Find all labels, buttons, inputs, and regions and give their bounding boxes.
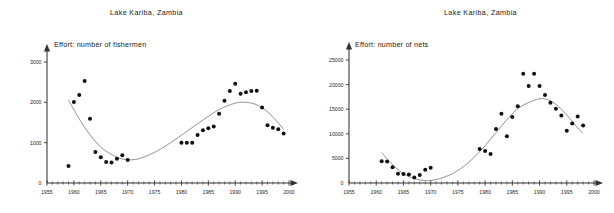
data-point — [401, 172, 405, 176]
data-point — [244, 90, 248, 94]
data-point — [478, 147, 482, 151]
data-point — [77, 93, 81, 97]
data-point — [538, 84, 542, 88]
svg-text:0: 0 — [39, 180, 42, 186]
data-point — [217, 112, 221, 116]
svg-text:10000: 10000 — [329, 131, 344, 137]
data-point — [88, 117, 92, 121]
svg-text:1965: 1965 — [95, 189, 107, 195]
svg-text:1960: 1960 — [370, 189, 382, 195]
data-point — [271, 126, 275, 130]
data-point — [276, 127, 280, 131]
data-point — [385, 160, 389, 164]
svg-text:0: 0 — [341, 180, 344, 186]
svg-text:15000: 15000 — [329, 106, 344, 112]
data-point — [516, 104, 520, 108]
svg-text:1995: 1995 — [256, 189, 268, 195]
data-point — [576, 115, 580, 119]
data-point — [429, 166, 433, 170]
svg-text:20000: 20000 — [329, 82, 344, 88]
fit-curve-fishermen — [69, 100, 284, 159]
data-point — [222, 99, 226, 103]
svg-text:1995: 1995 — [561, 189, 573, 195]
data-point — [559, 114, 563, 118]
svg-text:1975: 1975 — [149, 189, 161, 195]
data-point — [499, 112, 503, 116]
data-point — [212, 125, 216, 129]
data-point — [185, 141, 189, 145]
data-point — [510, 115, 514, 119]
data-point — [179, 141, 183, 145]
svg-text:1955: 1955 — [41, 189, 53, 195]
data-point — [527, 84, 531, 88]
data-point — [483, 149, 487, 153]
data-points-nets — [380, 72, 585, 180]
data-point — [418, 173, 422, 177]
data-point — [93, 150, 97, 154]
svg-text:1970: 1970 — [122, 189, 134, 195]
svg-text:1985: 1985 — [507, 189, 519, 195]
axes-nets: 0500010000150002000025000195519601965197… — [329, 42, 603, 195]
data-point — [581, 123, 585, 127]
data-point — [543, 93, 547, 97]
svg-text:1990: 1990 — [534, 189, 546, 195]
chart-panel-nets: Lake Kariba, Zambia Effort: number of ne… — [307, 0, 614, 213]
data-point — [206, 126, 210, 130]
data-point — [190, 141, 194, 145]
svg-text:3000: 3000 — [30, 59, 42, 65]
svg-text:1980: 1980 — [176, 189, 188, 195]
svg-text:2000: 2000 — [30, 99, 42, 105]
svg-text:25000: 25000 — [329, 57, 344, 63]
data-point — [521, 72, 525, 76]
data-point — [494, 127, 498, 131]
data-point — [505, 134, 509, 138]
data-point — [565, 129, 569, 133]
plot-area-nets: 0500010000150002000025000195519601965197… — [307, 0, 614, 213]
data-point — [532, 72, 536, 76]
data-point — [115, 157, 119, 161]
data-point — [72, 100, 76, 104]
data-point — [228, 89, 232, 93]
data-point — [104, 160, 108, 164]
svg-text:1990: 1990 — [229, 189, 241, 195]
plot-area-fishermen: 0100020003000195519601965197019751980198… — [0, 0, 307, 213]
data-point — [83, 79, 87, 83]
data-points-fishermen — [67, 79, 286, 168]
trend-line — [382, 99, 583, 181]
data-point — [407, 172, 411, 176]
data-point — [391, 165, 395, 169]
trend-line — [69, 100, 284, 159]
chart-panel-fishermen: Lake Kariba, Zambia Effort: number of fi… — [0, 0, 307, 213]
svg-text:1975: 1975 — [452, 189, 464, 195]
data-point — [260, 106, 264, 110]
svg-text:1965: 1965 — [398, 189, 410, 195]
data-point — [67, 164, 71, 168]
svg-text:1985: 1985 — [203, 189, 215, 195]
data-point — [570, 121, 574, 125]
data-point — [201, 128, 205, 132]
data-point — [396, 172, 400, 176]
data-point — [380, 159, 384, 163]
svg-text:2000: 2000 — [283, 189, 295, 195]
svg-text:1980: 1980 — [479, 189, 491, 195]
data-point — [126, 158, 130, 162]
data-point — [412, 176, 416, 180]
data-point — [233, 82, 237, 86]
data-point — [255, 89, 259, 93]
data-point — [239, 92, 243, 96]
svg-text:1000: 1000 — [30, 140, 42, 146]
data-point — [282, 131, 286, 135]
svg-text:2000: 2000 — [588, 189, 600, 195]
data-point — [423, 168, 427, 172]
svg-text:1970: 1970 — [425, 189, 437, 195]
svg-text:1955: 1955 — [343, 189, 355, 195]
axes-fishermen: 0100020003000195519601965197019751980198… — [30, 44, 298, 195]
figure-container: Lake Kariba, Zambia Effort: number of fi… — [0, 0, 614, 213]
data-point — [120, 153, 124, 157]
data-point — [554, 107, 558, 111]
data-point — [249, 89, 253, 93]
data-point — [548, 101, 552, 105]
data-point — [196, 133, 200, 137]
svg-text:5000: 5000 — [332, 155, 344, 161]
data-point — [489, 152, 493, 156]
